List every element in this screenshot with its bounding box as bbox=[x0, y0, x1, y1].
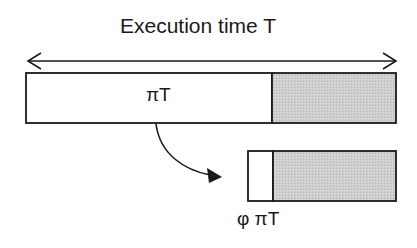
full-run-remaining-segment bbox=[272, 73, 396, 123]
transition-arrowhead-icon bbox=[207, 168, 222, 183]
restart-run-remaining-segment bbox=[273, 151, 396, 201]
execution-time-span-arrow bbox=[28, 53, 396, 69]
restart-run-completed-label: φ πT bbox=[237, 209, 279, 228]
restart-run-completed-segment bbox=[248, 151, 273, 201]
restart-transition-arrow bbox=[156, 124, 222, 183]
diagram-canvas bbox=[0, 0, 417, 248]
full-run-bar bbox=[26, 73, 396, 123]
full-run-completed-label: πT bbox=[146, 85, 171, 104]
diagram-title: Execution time T bbox=[120, 15, 276, 36]
restart-run-bar bbox=[248, 151, 396, 201]
